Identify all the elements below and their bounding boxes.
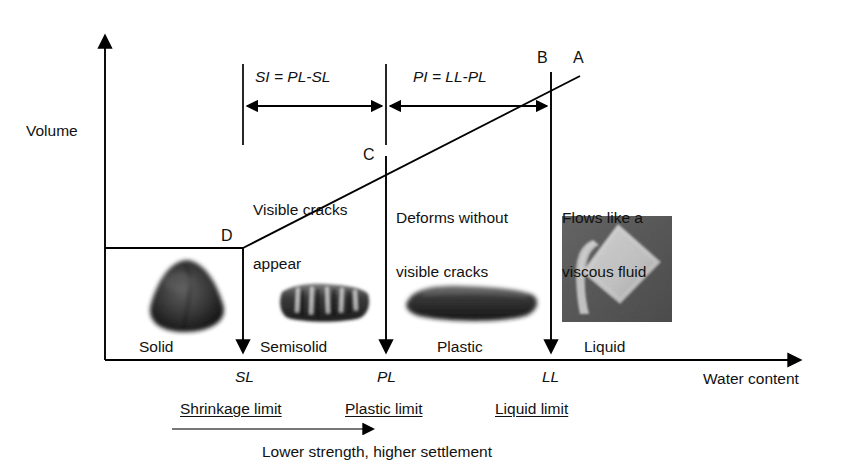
point-label-b: B [537,49,548,68]
liquid-description-line-1: Flows like a [562,209,646,227]
state-label-solid: Solid [139,338,173,356]
limit-symbol-sl: SL [235,368,254,386]
plastic-description-line-2: visible cracks [396,263,508,281]
soil-consistency-diagram: Volume Water content A B C D SI = PL-SL … [0,0,843,472]
point-label-c: C [363,146,375,165]
point-label-a: A [573,49,584,68]
shrinkage-index-label: SI = PL-SL [255,68,330,86]
limit-name-shrinkage: Shrinkage limit [180,400,282,418]
limit-symbol-ll: LL [542,368,559,386]
limit-symbol-pl: PL [377,368,396,386]
state-label-liquid: Liquid [584,338,625,356]
y-axis-label: Volume [26,122,78,140]
semisolid-description-line-1: Visible cracks [253,201,347,219]
limit-name-plastic: Plastic limit [345,400,423,418]
x-axis-label: Water content [703,370,799,388]
plastic-description-line-1: Deforms without [396,209,508,227]
liquid-description: Flows like a viscous fluid [562,172,646,318]
semisolid-description: Visible cracks appear [253,164,347,310]
point-label-d: D [221,227,233,246]
plastic-description: Deforms without visible cracks [396,172,508,318]
plasticity-index-label: PI = LL-PL [413,68,487,86]
trend-note: Lower strength, higher settlement [262,443,492,461]
semisolid-description-line-2: appear [253,255,347,273]
liquid-description-line-2: viscous fluid [562,263,646,281]
state-label-semisolid: Semisolid [260,338,327,356]
limit-name-liquid: Liquid limit [495,400,568,418]
state-label-plastic: Plastic [437,338,483,356]
